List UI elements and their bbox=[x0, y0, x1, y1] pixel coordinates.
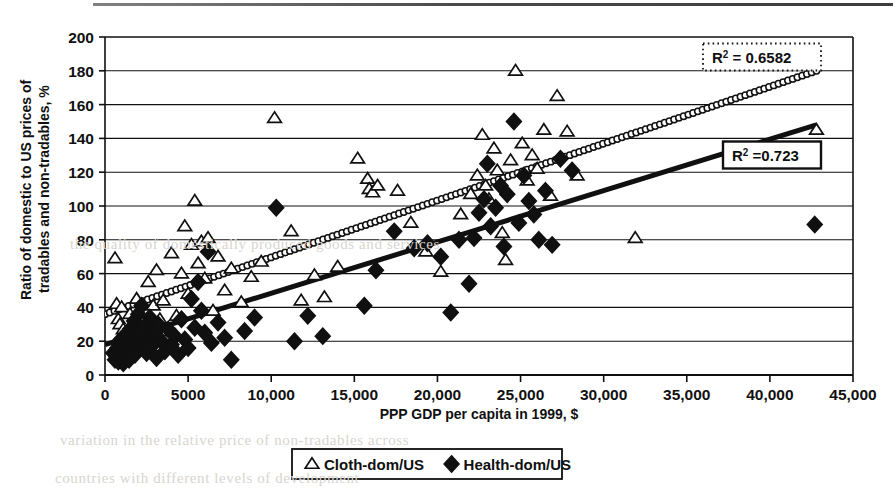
data-point bbox=[218, 284, 232, 295]
data-point bbox=[108, 252, 122, 263]
data-point bbox=[237, 323, 252, 339]
y-axis-title-line1: Ratio of domestic to US prices of bbox=[18, 80, 34, 300]
data-point bbox=[509, 65, 523, 76]
legend-label: Health-dom/US bbox=[464, 456, 572, 473]
data-point bbox=[141, 276, 155, 287]
data-point bbox=[434, 266, 448, 277]
data-point bbox=[224, 352, 239, 368]
data-point bbox=[545, 237, 560, 253]
data-point bbox=[454, 208, 468, 219]
chart-figure: the quality of domestically produced goo… bbox=[0, 0, 896, 493]
y-tick-label-160: 160 bbox=[68, 97, 94, 114]
data-point bbox=[300, 308, 315, 324]
data-point bbox=[357, 298, 372, 314]
data-point bbox=[504, 154, 518, 165]
y-tick-label-100: 100 bbox=[68, 198, 94, 215]
r2-health-text: R2 =0.723 bbox=[732, 147, 799, 164]
data-point bbox=[175, 267, 189, 278]
data-point bbox=[461, 276, 476, 292]
data-points bbox=[106, 65, 824, 372]
page-top-rule bbox=[93, 3, 893, 6]
data-point bbox=[268, 112, 282, 123]
y-tick-label-180: 180 bbox=[68, 63, 94, 80]
data-point bbox=[331, 261, 345, 272]
data-point bbox=[499, 254, 513, 265]
data-point bbox=[318, 291, 332, 302]
r2-cloth: R2 = 0.6582 bbox=[703, 44, 821, 71]
data-point bbox=[294, 294, 308, 305]
x-tick-label-30000: 30,000 bbox=[580, 386, 627, 403]
x-tick-label-35000: 35,000 bbox=[663, 386, 710, 403]
data-point bbox=[361, 173, 375, 184]
data-point bbox=[315, 328, 330, 344]
data-point bbox=[178, 220, 192, 231]
data-point bbox=[247, 309, 262, 325]
y-tick-label-140: 140 bbox=[68, 130, 94, 147]
data-point bbox=[525, 149, 539, 160]
data-point bbox=[150, 264, 164, 275]
y-tick-label-60: 60 bbox=[77, 266, 94, 283]
data-point bbox=[487, 142, 501, 153]
data-point bbox=[807, 216, 822, 232]
data-point bbox=[351, 152, 365, 163]
data-point bbox=[550, 90, 564, 101]
data-point bbox=[495, 227, 509, 238]
y-axis-ticks: 020406080100120140160180200 bbox=[68, 29, 105, 384]
data-point bbox=[308, 269, 322, 280]
y-axis-title: Ratio of domestic to US prices of tradab… bbox=[18, 80, 52, 300]
data-point bbox=[443, 304, 458, 320]
data-point bbox=[244, 271, 258, 282]
data-point bbox=[506, 113, 521, 129]
data-point bbox=[191, 257, 205, 268]
y-tick-label-0: 0 bbox=[85, 367, 94, 384]
data-point bbox=[537, 124, 551, 135]
data-point bbox=[269, 200, 284, 216]
r2-health: R2 =0.723 bbox=[723, 142, 821, 169]
x-tick-label-5000: 5000 bbox=[171, 386, 205, 403]
y-tick-label-20: 20 bbox=[77, 333, 94, 350]
data-point bbox=[531, 232, 546, 248]
legend-item-health-dom-us[interactable]: Health-dom/US bbox=[444, 456, 571, 473]
data-point bbox=[483, 218, 498, 234]
x-tick-label-0: 0 bbox=[101, 386, 110, 403]
data-point bbox=[496, 238, 511, 254]
x-tick-label-45000: 45,000 bbox=[829, 386, 876, 403]
data-point bbox=[188, 195, 202, 206]
data-point bbox=[284, 225, 298, 236]
data-point bbox=[404, 217, 418, 228]
x-tick-label-25000: 25,000 bbox=[497, 386, 544, 403]
bleed-through-text-line1: the quality of domestically produced goo… bbox=[70, 236, 440, 253]
y-tick-label-120: 120 bbox=[68, 164, 94, 181]
data-point bbox=[210, 314, 225, 330]
x-axis-title: PPP GDP per capita in 1999, $ bbox=[380, 406, 579, 422]
data-point bbox=[287, 333, 302, 349]
x-axis-ticks: 0500010,00015,00020,00025,00030,00035,00… bbox=[101, 375, 877, 403]
data-point bbox=[476, 129, 490, 140]
bleed-through-text-line3: countries with different levels of devel… bbox=[55, 470, 359, 487]
x-tick-label-15000: 15,000 bbox=[331, 386, 378, 403]
data-point bbox=[217, 330, 232, 346]
data-point bbox=[471, 169, 485, 180]
bleed-through-text-line2: variation in the relative price of non-t… bbox=[60, 432, 409, 449]
data-point bbox=[560, 125, 574, 136]
data-point bbox=[391, 185, 405, 196]
data-point bbox=[480, 156, 495, 172]
y-axis-title-line2: tradables and non-tradables, % bbox=[36, 85, 52, 293]
y-tick-label-200: 200 bbox=[68, 29, 94, 46]
x-tick-label-40000: 40,000 bbox=[746, 386, 793, 403]
x-tick-label-20000: 20,000 bbox=[414, 386, 461, 403]
y-tick-label-40: 40 bbox=[77, 299, 94, 316]
data-point bbox=[628, 232, 642, 243]
x-tick-label-10000: 10,000 bbox=[248, 386, 295, 403]
